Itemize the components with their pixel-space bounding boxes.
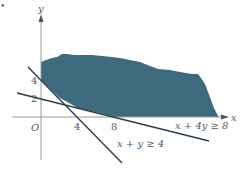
inequality-label-1: x + y ≥ 4 <box>117 138 164 149</box>
x-tick-4: 4 <box>74 121 80 132</box>
x-tick-8: 8 <box>111 121 117 132</box>
y-tick-4: 4 <box>31 75 37 86</box>
corner-marker: • <box>0 1 5 11</box>
x-axis-arrow-icon <box>221 115 229 120</box>
origin-label: O <box>31 122 39 133</box>
y-axis-label: y <box>37 3 44 14</box>
inequality-label-2: x + 4y ≥ 8 <box>175 120 229 131</box>
x-axis-label: x <box>231 112 237 123</box>
y-axis-arrow-icon <box>39 14 44 22</box>
inequality-region-diagram: • y x O 4 2 4 8 x + 4y ≥ 8 x + y ≥ 4 <box>0 0 242 169</box>
